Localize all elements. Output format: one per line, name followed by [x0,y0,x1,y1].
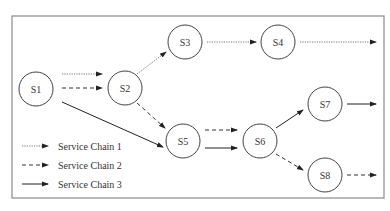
node-label: S4 [273,37,284,48]
node-s5: S5 [166,124,200,158]
edge-chain2-s2-to-s5 [137,103,165,128]
node-label: S7 [320,99,331,110]
node-label: S2 [120,83,131,94]
edge-chain1-s2-to-s3 [137,52,166,74]
node-s2: S2 [108,71,142,105]
node-s8: S8 [308,158,342,192]
node-label: S6 [255,136,266,147]
edge-chain3-s6-to-s7 [276,110,303,128]
edge-chain2-s6-to-s8 [276,154,303,170]
legend-label: Service Chain 3 [58,179,122,190]
legend-label: Service Chain 1 [58,141,122,152]
node-s3: S3 [168,25,202,59]
node-label: S3 [180,37,191,48]
node-label: S5 [178,136,189,147]
service-chain-diagram: S1S2S3S4S5S6S7S8 Service Chain 1Service … [0,0,390,211]
node-s6: S6 [243,124,277,158]
legend-item-chain-2: Service Chain 2 [22,160,122,171]
legend-item-chain-1: Service Chain 1 [22,141,122,152]
legend-item-chain-3: Service Chain 3 [22,179,122,190]
node-s4: S4 [261,25,295,59]
node-s7: S7 [308,87,342,121]
node-s1: S1 [19,72,53,106]
legend-label: Service Chain 2 [58,160,122,171]
node-label: S1 [31,84,42,95]
legend: Service Chain 1Service Chain 2Service Ch… [22,141,122,190]
node-label: S8 [320,170,331,181]
